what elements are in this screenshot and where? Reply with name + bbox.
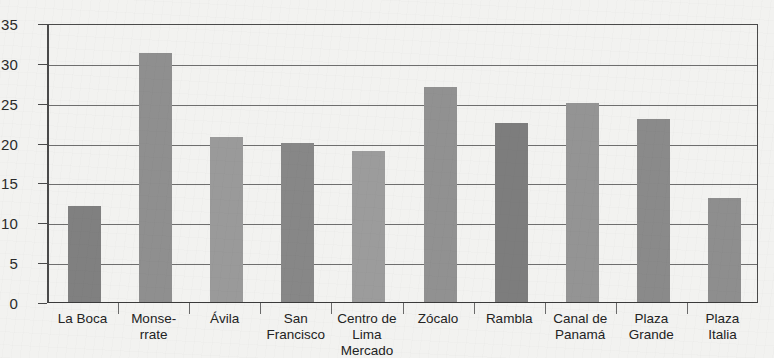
x-axis-category-label-line: Zócalo (403, 311, 474, 327)
y-axis-tick-label: 15 (0, 175, 18, 192)
x-axis-category-label-line: Plaza (616, 311, 687, 327)
bar (68, 206, 101, 302)
y-axis-tick-label: 5 (0, 255, 18, 272)
x-axis-category-label-line: Francisco (260, 327, 331, 343)
x-axis-category-label: PlazaItalia (687, 311, 758, 343)
x-axis-category-label-line: rrate (118, 327, 189, 343)
x-axis-category-label: Centro deLimaMercado (331, 311, 402, 358)
x-axis-category-label-line: San (260, 311, 331, 327)
x-axis-category-label-line: Lima (331, 327, 402, 343)
y-axis-tick-mark (38, 303, 47, 304)
bar (139, 53, 172, 302)
x-axis-category-label-line: Mercado (331, 343, 402, 358)
y-axis-tick-label: 35 (0, 16, 18, 33)
x-axis-category-label-line: La Boca (47, 311, 118, 327)
bar (210, 137, 243, 302)
x-axis-category-label-line: Panamá (545, 327, 616, 343)
x-axis-category-label: Ávila (189, 311, 260, 327)
y-axis-tick-label: 30 (0, 55, 18, 72)
bar (708, 198, 741, 302)
y-axis-tick-mark (38, 183, 47, 184)
x-axis-category-label: La Boca (47, 311, 118, 327)
x-axis-category-label-line: Centro de (331, 311, 402, 327)
bar (352, 151, 385, 302)
chart-page: 05101520253035 La BocaMonse-rrateÁvilaSa… (0, 0, 774, 358)
x-axis-category-label: Zócalo (403, 311, 474, 327)
y-axis-tick-mark (38, 263, 47, 264)
x-axis-category-label-line: Ávila (189, 311, 260, 327)
x-axis-category-label: Canal dePanamá (545, 311, 616, 343)
y-axis-tick-mark (38, 24, 47, 25)
y-axis-tick-label: 0 (0, 295, 18, 312)
x-axis-category-label: Monse-rrate (118, 311, 189, 343)
bar (281, 143, 314, 302)
x-axis-category-label-line: Monse- (118, 311, 189, 327)
x-axis-category-label-line: Italia (687, 327, 758, 343)
plot-area (47, 24, 758, 303)
x-axis-category-label-line: Rambla (474, 311, 545, 327)
y-axis-tick-label: 20 (0, 135, 18, 152)
bar (424, 87, 457, 302)
bar (637, 119, 670, 302)
bar (495, 123, 528, 302)
x-axis-category-label: SanFrancisco (260, 311, 331, 343)
y-axis-tick-mark (38, 64, 47, 65)
bar (566, 103, 599, 302)
x-axis-category-label-line: Plaza (687, 311, 758, 327)
y-axis-tick-mark (38, 104, 47, 105)
y-axis-tick-mark (38, 223, 47, 224)
x-axis-category-label-line: Canal de (545, 311, 616, 327)
x-axis-category-label: Rambla (474, 311, 545, 327)
y-axis-tick-mark (38, 144, 47, 145)
x-axis-category-label-line: Grande (616, 327, 687, 343)
x-axis: La BocaMonse-rrateÁvilaSanFranciscoCentr… (47, 303, 758, 358)
y-axis-tick-label: 25 (0, 95, 18, 112)
x-axis-category-label: PlazaGrande (616, 311, 687, 343)
y-axis-tick-label: 10 (0, 215, 18, 232)
